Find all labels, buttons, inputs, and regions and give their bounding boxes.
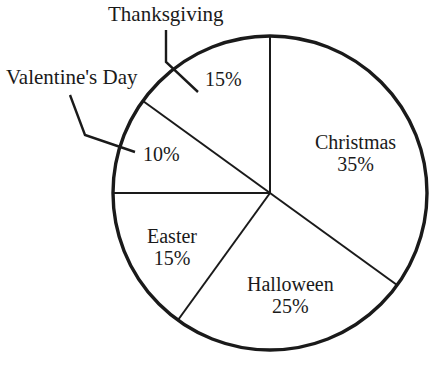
- pie-chart-figure: Thanksgiving Valentine's Day 15% 10% Chr…: [0, 0, 439, 366]
- slice-percent-valentines-day: 10%: [143, 143, 180, 165]
- slice-label-easter-name: Easter: [147, 225, 197, 247]
- slice-label-halloween-name: Halloween: [247, 273, 334, 295]
- slice-label-christmas-name: Christmas: [315, 131, 396, 153]
- slice-label-valentines-day: Valentine's Day: [6, 66, 138, 90]
- slice-label-easter: Easter 15%: [147, 225, 197, 270]
- slice-percent-thanksgiving: 15%: [205, 68, 242, 90]
- slice-label-halloween: Halloween 25%: [247, 273, 334, 318]
- slice-label-christmas: Christmas 35%: [315, 131, 396, 176]
- slice-percent-christmas: 35%: [315, 153, 396, 175]
- pie-chart-canvas: [0, 0, 439, 366]
- slice-percent-halloween: 25%: [247, 295, 334, 317]
- slice-percent-easter: 15%: [147, 247, 197, 269]
- slice-label-thanksgiving: Thanksgiving: [108, 3, 224, 27]
